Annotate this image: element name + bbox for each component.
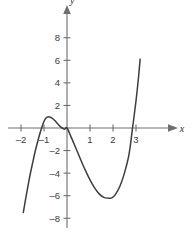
x-tick-label: –2 bbox=[16, 134, 27, 145]
y-tick-label: –2 bbox=[49, 145, 60, 156]
y-tick-label: –4 bbox=[49, 168, 60, 179]
y-tick-label: 6 bbox=[55, 55, 60, 66]
x-tick-label: 2 bbox=[110, 134, 115, 145]
y-tick-label: 4 bbox=[55, 77, 60, 88]
y-tick-label: –6 bbox=[49, 190, 60, 201]
y-axis-label: y bbox=[69, 0, 75, 6]
x-axis-tick-labels: –2–1123 bbox=[16, 134, 139, 145]
x-tick-label: 1 bbox=[87, 134, 92, 145]
axes-group bbox=[8, 5, 178, 228]
x-axis-label: x bbox=[179, 123, 185, 134]
x-tick-label: –1 bbox=[39, 134, 50, 145]
y-tick-label: 2 bbox=[55, 100, 60, 111]
x-tick-label: 3 bbox=[133, 134, 138, 145]
y-tick-label: –8 bbox=[49, 213, 60, 224]
plot-canvas: –2–1123 8642–2–4–6–8 x y bbox=[0, 0, 193, 236]
y-tick-label: 8 bbox=[55, 32, 60, 43]
y-axis-arrow-icon bbox=[63, 5, 71, 14]
x-axis-arrow-icon bbox=[168, 124, 178, 132]
cubic-function-graph: –2–1123 8642–2–4–6–8 x y bbox=[0, 0, 193, 236]
